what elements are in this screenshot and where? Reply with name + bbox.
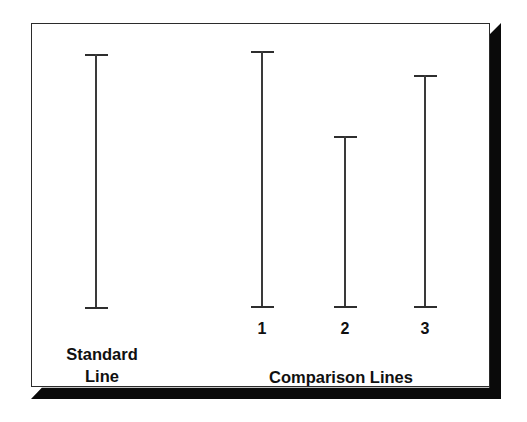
comparison-line-2-stem bbox=[344, 136, 346, 308]
comparison-line-1 bbox=[251, 51, 274, 308]
comparison-line-2-label: 2 bbox=[330, 321, 360, 337]
comparison-line-3-bottom-cap bbox=[414, 306, 437, 308]
standard-line-caption-line1: Standard bbox=[66, 345, 138, 363]
standard-line-caption-line2: Line bbox=[85, 367, 119, 385]
standard-line-stem bbox=[95, 54, 97, 309]
figure-canvas: 1 2 3 Standard Line Comparison Lines bbox=[0, 0, 527, 422]
comparison-line-3-stem bbox=[424, 75, 426, 308]
comparison-line-3-label: 3 bbox=[410, 321, 440, 337]
standard-line-bottom-cap bbox=[85, 307, 108, 309]
comparison-line-2 bbox=[334, 136, 357, 308]
standard-line bbox=[85, 54, 108, 309]
figure-panel: 1 2 3 Standard Line Comparison Lines bbox=[31, 23, 490, 387]
comparison-line-2-bottom-cap bbox=[334, 306, 357, 308]
comparison-line-3 bbox=[414, 75, 437, 308]
standard-line-caption: Standard Line bbox=[59, 344, 145, 388]
comparison-line-1-bottom-cap bbox=[251, 306, 274, 308]
comparison-line-1-label: 1 bbox=[247, 321, 277, 337]
comparison-line-1-stem bbox=[261, 51, 263, 308]
comparison-lines-caption: Comparison Lines bbox=[269, 367, 413, 389]
